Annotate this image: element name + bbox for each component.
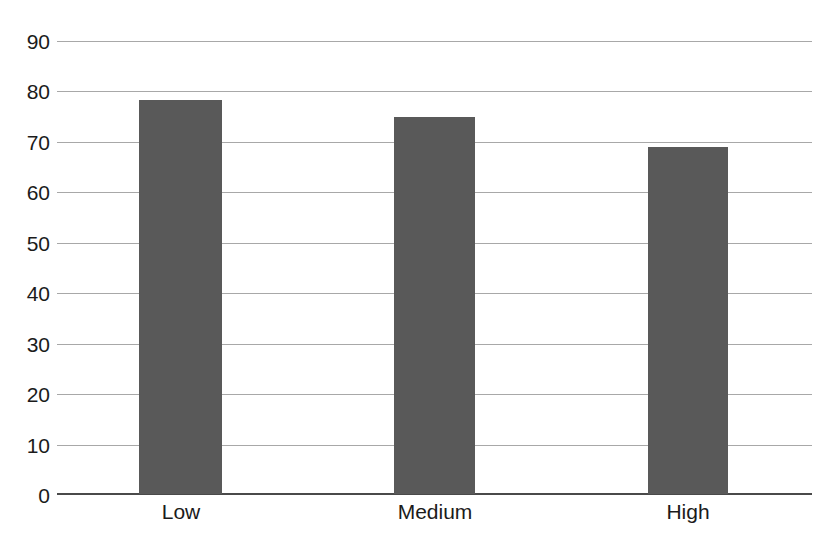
y-tick-label: 60: [4, 182, 50, 203]
y-tick-label: 80: [4, 81, 50, 102]
y-tick-label: 70: [4, 132, 50, 153]
y-tick-label: 40: [4, 283, 50, 304]
y-tick-label: 90: [4, 31, 50, 52]
x-axis-category-labels: Low Medium High: [57, 500, 812, 540]
y-tick-label: 10: [4, 435, 50, 456]
x-tick-label-medium: Medium: [398, 500, 473, 524]
bar-chart: 90 80 70 60 50 40 30 20 10 0 Low Medium …: [0, 0, 832, 543]
y-tick-label: 0: [4, 485, 50, 506]
bars-layer: [57, 41, 812, 494]
y-tick-label: 50: [4, 233, 50, 254]
bar-high: [648, 147, 728, 494]
bar-low: [139, 100, 222, 494]
bar-medium: [394, 117, 475, 494]
y-tick-label: 20: [4, 384, 50, 405]
y-tick-label: 30: [4, 334, 50, 355]
y-axis-tick-labels: 90 80 70 60 50 40 30 20 10 0: [0, 41, 50, 494]
x-tick-label-high: High: [666, 500, 709, 524]
x-tick-label-low: Low: [162, 500, 201, 524]
